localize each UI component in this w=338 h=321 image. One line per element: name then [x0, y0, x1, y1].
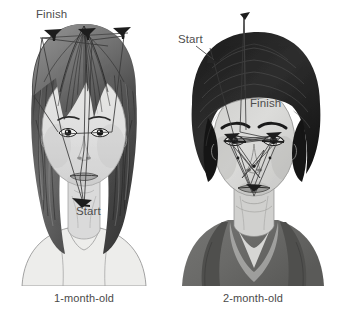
figure-root: Finish Start 1-month-old — [0, 0, 338, 321]
finish-label-one-month-old: Finish — [36, 8, 67, 20]
caption-two-month-old: 2-month-old — [168, 292, 338, 305]
finish-label-two-month-old: Finish — [250, 97, 281, 109]
panel-one-month-old: Finish Start 1-month-old — [0, 0, 168, 321]
illustration-one-month-old — [0, 0, 168, 286]
caption-one-month-old: 1-month-old — [0, 292, 168, 305]
start-label-one-month-old: Start — [76, 205, 101, 217]
panel-two-month-old: Start Finish 2-month-old — [168, 0, 338, 321]
start-label-two-month-old: Start — [178, 33, 203, 45]
face-drawing-one-month-old — [0, 0, 168, 286]
